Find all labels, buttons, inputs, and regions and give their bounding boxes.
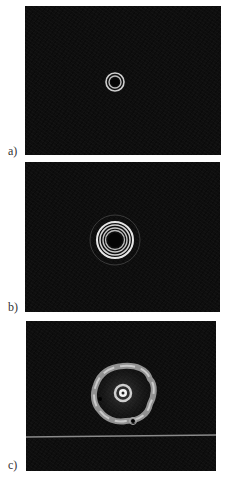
concentric-rings-a: [25, 6, 221, 155]
flower-pattern-c: [26, 321, 216, 471]
panel-b-label: b): [8, 301, 18, 313]
horizontal-line-artifact: [26, 435, 216, 437]
concentric-rings-b: [25, 162, 220, 312]
panel-c-image: [26, 321, 216, 471]
panel-b-image: [25, 162, 220, 312]
panel-a-image: [25, 6, 221, 155]
panel-a-label: a): [8, 145, 17, 157]
panel-c-label: c): [8, 459, 17, 471]
